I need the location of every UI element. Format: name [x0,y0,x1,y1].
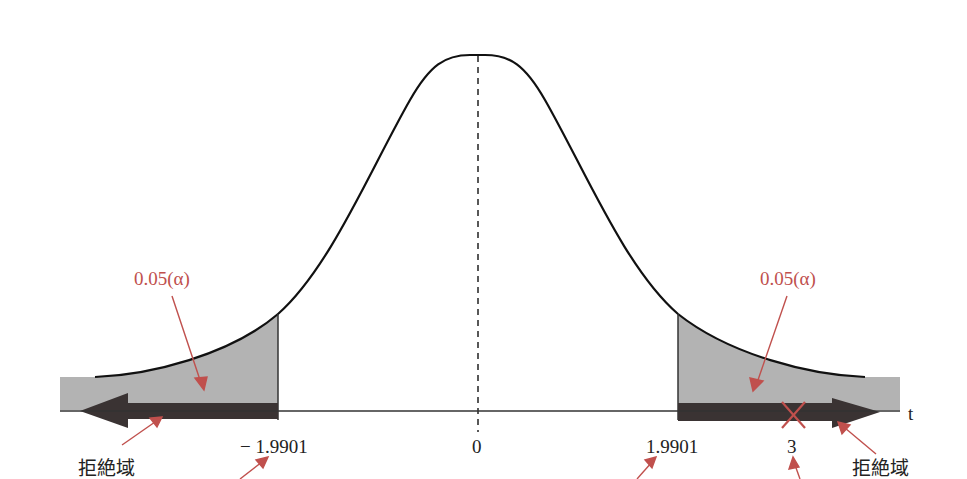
left-rejection-region-label: 拒絶域 [78,453,135,479]
right-tail-shade [678,314,900,410]
tick-pos-critical: 1.9901 [646,436,698,458]
t-density-curve [95,55,865,377]
right-alpha-label: 0.05(α) [760,268,816,290]
neg-critical-arrowhead [256,457,268,468]
right-rejection-region-label: 拒絶域 [852,453,909,479]
tick-three: 3 [787,436,797,458]
tick-neg-critical: − 1.9901 [240,436,308,458]
left-region-arrowhead [150,417,162,427]
t-distribution-diagram: 0.05(α) 0.05(α) − 1.9901 0 1.9901 3 t 拒絶… [0,0,967,479]
tick-zero: 0 [472,436,482,458]
pos-critical-arrowhead [645,457,656,468]
right-region-pointer [845,428,876,454]
axis-label-t: t [908,403,913,425]
left-tail-shade [60,314,278,410]
neg-critical-pointer [240,462,262,479]
stat-arrowhead [789,457,799,469]
left-alpha-label: 0.05(α) [134,268,190,290]
right-region-arrowhead [838,422,850,434]
